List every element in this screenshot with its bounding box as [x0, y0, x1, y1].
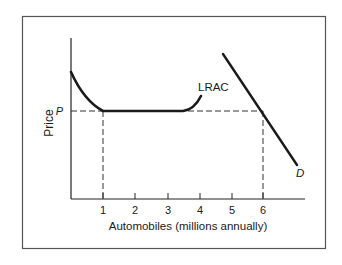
reference-lines: [71, 111, 263, 199]
lrac-curve: [71, 72, 201, 111]
demand-line: [223, 54, 297, 165]
svg-text:6: 6: [260, 204, 266, 216]
svg-text:1: 1: [100, 204, 106, 216]
svg-text:4: 4: [197, 204, 203, 216]
figure-frame: [23, 17, 326, 249]
svg-text:3: 3: [165, 204, 171, 216]
x-tick-labels: 1 2 3 4 5 6: [100, 204, 266, 216]
svg-text:5: 5: [229, 204, 235, 216]
lrac-label: LRAC: [198, 81, 229, 93]
svg-text:2: 2: [132, 204, 138, 216]
x-ticks: [103, 193, 263, 199]
x-axis-label: Automobiles (millions annually): [109, 220, 268, 232]
price-level-label: P: [56, 105, 64, 117]
demand-label: D: [296, 167, 304, 179]
y-axis-label: Price: [42, 109, 56, 137]
chart-figure: Price P LRAC D 1 2 3 4 5 6 Automobiles (…: [0, 0, 342, 265]
